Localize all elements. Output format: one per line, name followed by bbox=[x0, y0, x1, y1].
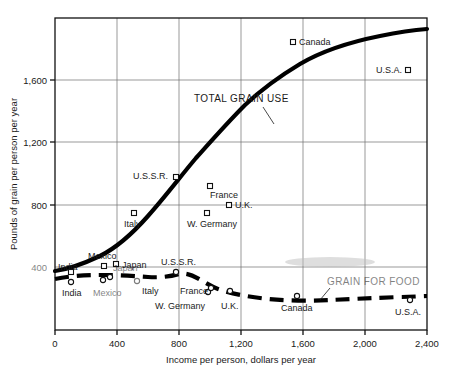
point-label-uk-total: U.K. bbox=[235, 200, 253, 210]
point-marker-ussr-total[interactable] bbox=[174, 175, 179, 180]
point-label-canada-total: Canada bbox=[299, 37, 331, 47]
point-marker-usa-total[interactable] bbox=[406, 68, 411, 73]
point-label-france-total: France bbox=[210, 190, 238, 200]
point-marker-italy-total[interactable] bbox=[132, 211, 137, 216]
point-marker-usa-food[interactable] bbox=[407, 297, 412, 302]
point-marker-mexico-food[interactable] bbox=[100, 277, 105, 282]
y-tick-400: 400 bbox=[31, 262, 47, 273]
grain-for-food-label: GRAIN FOR FOOD bbox=[327, 276, 420, 287]
point-marker-italy-food[interactable] bbox=[134, 278, 139, 283]
x-tick-800: 800 bbox=[171, 338, 187, 349]
total-grain-use-label: TOTAL GRAIN USE bbox=[194, 93, 289, 104]
point-marker-france-total[interactable] bbox=[208, 184, 213, 189]
grain-for-food-points: India Mexico Japan Italy U.S.S.R. W. Ger… bbox=[62, 257, 421, 317]
x-tick-2000: 2,000 bbox=[353, 338, 377, 349]
point-label-canada-food: Canada bbox=[281, 303, 313, 313]
point-marker-uk-food[interactable] bbox=[227, 288, 232, 293]
y-tick-1200: 1,200 bbox=[23, 137, 47, 148]
point-label-italy-total: Italy bbox=[124, 219, 141, 229]
point-marker-canada-food[interactable] bbox=[294, 293, 299, 298]
x-tick-2400: 2,400 bbox=[415, 338, 439, 349]
point-label-japan-food: Japan bbox=[113, 263, 138, 273]
point-label-usa-food: U.S.A. bbox=[395, 307, 421, 317]
point-label-ussr-food: U.S.S.R. bbox=[161, 257, 196, 267]
point-label-wgermany-total: W. Germany bbox=[187, 219, 238, 229]
y-axis-title: Pounds of grain per person per year bbox=[8, 98, 19, 250]
point-label-india-food: India bbox=[62, 288, 82, 298]
point-label-france-food: France bbox=[180, 286, 208, 296]
point-label-usa-total: U.S.A. bbox=[376, 65, 402, 75]
point-marker-wgermany-total[interactable] bbox=[205, 211, 210, 216]
point-label-wgermany-food: W. Germany bbox=[155, 301, 206, 311]
y-axis-ticks: 1,600 1,200 800 400 bbox=[23, 75, 55, 274]
scan-smudge bbox=[285, 257, 375, 267]
x-tick-400: 400 bbox=[109, 338, 125, 349]
point-marker-ussr-food[interactable] bbox=[173, 269, 178, 274]
x-tick-1200: 1,200 bbox=[229, 338, 253, 349]
x-axis-title: Income per person, dollars per year bbox=[166, 354, 316, 365]
x-tick-1600: 1,600 bbox=[291, 338, 315, 349]
point-label-mexico-food: Mexico bbox=[93, 288, 122, 298]
point-marker-uk-total[interactable] bbox=[227, 203, 232, 208]
point-marker-japan-food[interactable] bbox=[107, 274, 112, 279]
x-tick-0: 0 bbox=[52, 338, 57, 349]
y-tick-1600: 1,600 bbox=[23, 75, 47, 86]
point-label-italy-food: Italy bbox=[142, 286, 159, 296]
point-marker-canada-total[interactable] bbox=[291, 40, 296, 45]
point-label-ussr-total: U.S.S.R. bbox=[133, 171, 168, 181]
y-tick-800: 800 bbox=[31, 200, 47, 211]
point-label-mexico-total: Mexico bbox=[88, 251, 117, 261]
point-marker-india-food[interactable] bbox=[68, 279, 73, 284]
point-label-uk-food: U.K. bbox=[221, 301, 239, 311]
point-label-india-total: India bbox=[58, 262, 78, 272]
point-marker-mexico-total[interactable] bbox=[102, 264, 107, 269]
total-grain-use-points: India Mexico Japan Italy U.S.S.R. W. Ger… bbox=[58, 37, 411, 275]
x-axis-ticks: 0 400 800 1,200 1,600 2,000 2,400 bbox=[52, 330, 439, 349]
chart-page: 1,600 1,200 800 400 Pounds of grain per … bbox=[0, 0, 450, 369]
point-marker-france-food[interactable] bbox=[208, 285, 213, 290]
grain-use-chart: 1,600 1,200 800 400 Pounds of grain per … bbox=[0, 0, 450, 369]
